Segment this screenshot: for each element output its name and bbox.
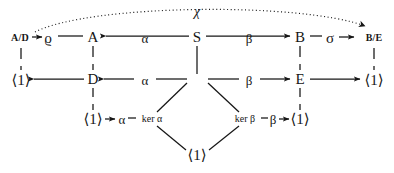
map-label-alpha-lower: α	[119, 113, 126, 126]
node-trivial-lower-right: ⟨1⟩	[290, 112, 309, 127]
node-a: A	[88, 30, 99, 45]
map-label-beta-lower: β	[270, 113, 277, 126]
node-b-mod-e: B/E	[366, 33, 383, 43]
node-trivial-left: ⟨1⟩	[11, 73, 30, 88]
map-label-ker-alpha: ker α	[142, 114, 163, 124]
edge-ker-beta-to-one-bottom	[209, 126, 239, 150]
node-b: B	[295, 30, 305, 45]
map-label-rho: ϱ	[44, 31, 52, 46]
node-s: S	[193, 30, 201, 45]
map-label-chi: χ	[194, 5, 200, 19]
node-a-mod-d: A/D	[11, 33, 29, 43]
node-trivial-lower-left: ⟨1⟩	[83, 112, 102, 127]
map-label-alpha-top: α	[142, 32, 149, 45]
node-e: E	[295, 72, 304, 87]
edge-alpha-row-to-ker-alpha	[157, 83, 187, 112]
node-d: D	[88, 72, 99, 87]
commutative-diagram: A/D ϱ A S B σ B/E ⟨1⟩ D E ⟨1⟩ ⟨1⟩ ⟨1⟩ ⟨1…	[0, 0, 394, 173]
map-label-sigma: σ	[326, 31, 334, 46]
map-label-beta-top: β	[246, 32, 253, 45]
map-label-alpha-middle: α	[142, 74, 149, 87]
node-trivial-right: ⟨1⟩	[364, 73, 383, 88]
node-trivial-bottom: ⟨1⟩	[187, 148, 206, 163]
edge-ker-alpha-to-one-bottom	[157, 126, 186, 150]
map-label-beta-middle: β	[246, 74, 253, 87]
edge-beta-row-to-ker-beta	[208, 83, 239, 112]
map-label-ker-beta: ker β	[235, 114, 255, 124]
